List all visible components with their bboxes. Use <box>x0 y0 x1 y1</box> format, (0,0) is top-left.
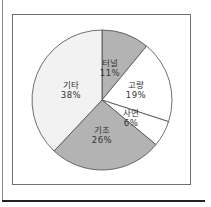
slice-percent: 11% <box>100 68 120 78</box>
pie-slices <box>32 30 172 170</box>
slice-name: 고량 <box>126 80 146 90</box>
bottom-rule-line <box>2 200 205 202</box>
slice-percent: 26% <box>92 135 112 145</box>
slice-label-slope: 사면 6% <box>123 108 140 128</box>
slice-label-foundation: 기초 26% <box>92 125 112 145</box>
slice-name: 기타 <box>61 80 81 90</box>
slice-label-other: 기타 38% <box>61 80 81 100</box>
slice-label-bridge: 고량 19% <box>126 80 146 100</box>
slice-name: 터널 <box>100 58 120 68</box>
slice-percent: 6% <box>123 118 140 128</box>
slice-percent: 19% <box>126 90 146 100</box>
pie-chart <box>0 0 211 207</box>
slice-name: 사면 <box>123 108 140 118</box>
slice-label-tunnel: 터널 11% <box>100 58 120 78</box>
slice-name: 기초 <box>92 125 112 135</box>
slice-percent: 38% <box>61 90 81 100</box>
